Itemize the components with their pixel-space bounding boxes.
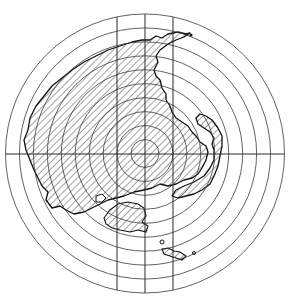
landmasses [24,32,222,260]
small-island-southeast [162,248,186,260]
range-ring-map [0,0,289,300]
large-island [104,202,148,232]
islet-near-southeast [160,240,164,244]
map-figure [0,0,289,300]
